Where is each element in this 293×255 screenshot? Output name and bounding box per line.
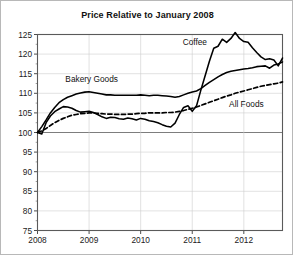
y-tick-label: 125 (18, 30, 32, 40)
y-tick-label: 100 (18, 128, 32, 138)
y-tick-label: 90 (23, 167, 33, 177)
y-tick-label: 120 (18, 49, 32, 59)
y-tick-label: 110 (19, 88, 33, 98)
y-tick-label: 85 (23, 186, 33, 196)
y-tick-label: 105 (18, 108, 32, 118)
y-axis-ticks: 7580859095100105110115120125 (18, 30, 37, 236)
chart-container: Price Relative to January 2008 758085909… (0, 0, 293, 255)
series-label-coffee: Coffee (183, 37, 208, 47)
x-tick-label: 2012 (235, 235, 254, 245)
y-tick-label: 80 (23, 206, 33, 216)
y-tick-label: 95 (23, 147, 33, 157)
gridlines (38, 35, 283, 231)
x-axis-ticks: 20082009201020112012 (28, 231, 253, 246)
x-tick-label: 2008 (28, 235, 47, 245)
series-labels: CoffeeBakery GoodsAll Foods (65, 37, 263, 108)
x-tick-label: 2009 (80, 235, 99, 245)
chart-plot: 7580859095100105110115120125 20082009201… (1, 1, 293, 255)
series-line-bakery-goods (38, 62, 283, 133)
series-label-all-foods: All Foods (229, 99, 264, 109)
x-tick-label: 2011 (183, 235, 201, 245)
x-tick-label: 2010 (131, 235, 150, 245)
y-tick-label: 75 (23, 226, 33, 236)
series-label-bakery-goods: Bakery Goods (65, 74, 118, 84)
y-tick-label: 115 (19, 69, 33, 79)
